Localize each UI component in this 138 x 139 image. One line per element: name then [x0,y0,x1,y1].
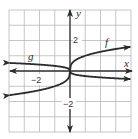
graph: 2 −2 −2 y x f g [0,0,138,139]
curve-label-g: g [28,50,34,62]
y-tick-label-2: 2 [73,35,78,45]
y-tick-label-neg2: −2 [63,99,73,109]
y-axis-label: y [75,7,81,19]
curve-label-f: f [105,36,110,48]
x-tick-label-neg2: −2 [31,75,41,85]
x-axis-label: x [123,57,129,69]
